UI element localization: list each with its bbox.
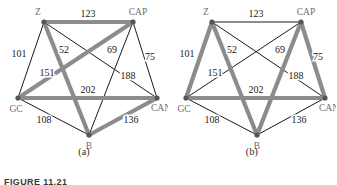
edge-weight-z-b: 151 bbox=[208, 67, 223, 78]
vertex-cap bbox=[130, 19, 135, 24]
edge-weight-cap-b: 188 bbox=[121, 70, 136, 81]
vertex-b bbox=[86, 132, 91, 137]
panel-a-caption: (a) bbox=[0, 146, 168, 157]
edge-weight-cap-gc: 69 bbox=[275, 44, 285, 55]
edge-cap-gc bbox=[186, 22, 301, 98]
edge-z-gc bbox=[18, 22, 44, 98]
node-label-cap: CAP bbox=[129, 7, 147, 17]
figure-number: FIGURE 11.21 bbox=[4, 177, 67, 185]
figure-container: ZCAPCANBGC 12312310110115115152526969757… bbox=[0, 0, 337, 185]
panel-b-caption: (b) bbox=[168, 146, 336, 157]
vertex-z bbox=[41, 19, 46, 24]
node-label-z: Z bbox=[203, 7, 209, 17]
edge-weight-gc-b: 108 bbox=[205, 114, 220, 125]
edge-weight-gc-b: 108 bbox=[37, 114, 52, 125]
edge-weight-cap-b: 188 bbox=[289, 70, 304, 81]
node-label-z: Z bbox=[35, 7, 41, 17]
edge-weight-cap-gc: 69 bbox=[107, 44, 117, 55]
edge-weight-can-b: 136 bbox=[124, 114, 139, 125]
edge-weight-z-cap: 123 bbox=[249, 8, 264, 19]
edge-weight-z-gc: 101 bbox=[180, 48, 195, 59]
vertex-can bbox=[322, 95, 327, 100]
edge-weight-z-can: 52 bbox=[227, 44, 237, 55]
vertex-gc bbox=[15, 95, 20, 100]
figure-panel-a: ZCAPCANBGC 12312310110115115152526969757… bbox=[0, 0, 168, 168]
node-label-gc: GC bbox=[9, 104, 22, 114]
edge-weight-can-b: 136 bbox=[292, 114, 307, 125]
edge-weight-cap-can: 75 bbox=[145, 51, 155, 62]
node-label-can: CAN bbox=[151, 103, 168, 113]
node-label-can: CAN bbox=[319, 103, 336, 113]
edge-weight-z-cap: 123 bbox=[81, 8, 96, 19]
vertex-b bbox=[254, 132, 259, 137]
node-labels-a: ZCAPCANBGC bbox=[9, 7, 168, 150]
edge-weight-z-b: 151 bbox=[40, 67, 55, 78]
graph-a: ZCAPCANBGC 12312310110115115152526969757… bbox=[0, 0, 168, 150]
edge-weight-gc-can: 202 bbox=[81, 84, 96, 95]
vertex-can bbox=[154, 95, 159, 100]
figure-panel-b: ZCAPCANBGC 12312310110115115152526969757… bbox=[168, 0, 336, 168]
vertex-z bbox=[209, 19, 214, 24]
edge-z-gc bbox=[186, 22, 212, 98]
edge-cap-gc bbox=[18, 22, 133, 98]
edge-weight-z-gc: 101 bbox=[12, 48, 27, 59]
edge-weight-cap-can: 75 bbox=[313, 51, 323, 62]
node-label-cap: CAP bbox=[297, 7, 315, 17]
vertex-cap bbox=[298, 19, 303, 24]
vertex-gc bbox=[183, 95, 188, 100]
node-labels-b: ZCAPCANBGC bbox=[177, 7, 336, 150]
edge-weights-a: 1231231011011511515252696975751881882022… bbox=[12, 8, 156, 125]
edge-weight-gc-can: 202 bbox=[249, 84, 264, 95]
edge-weight-z-can: 52 bbox=[59, 44, 69, 55]
graph-b: ZCAPCANBGC 12312310110115115152526969757… bbox=[168, 0, 336, 150]
node-label-gc: GC bbox=[177, 104, 190, 114]
